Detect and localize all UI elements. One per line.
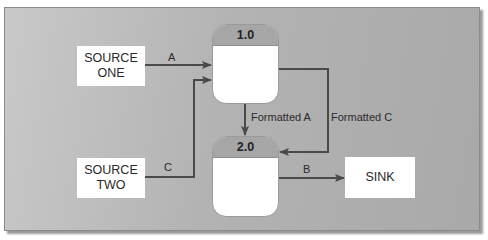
flow-label-formatted-c: Formatted C <box>331 111 392 123</box>
flow-label-a: A <box>168 51 175 63</box>
entity-source-two: SOURCE TWO <box>77 158 145 198</box>
entity-label-line: ONE <box>84 66 137 81</box>
process-1: 1.0 <box>212 24 279 104</box>
entity-label-line: SOURCE <box>84 51 137 66</box>
flow-label-formatted-a: Formatted A <box>251 111 311 123</box>
flow-label-b: B <box>303 163 310 175</box>
flow-label-c: C <box>164 161 172 173</box>
process-number: 1.0 <box>213 25 278 46</box>
process-number: 2.0 <box>213 137 278 158</box>
entity-label-line: SOURCE <box>84 163 137 178</box>
entity-label-line: TWO <box>84 178 137 193</box>
entity-source-one: SOURCE ONE <box>77 46 145 86</box>
flow-c-arrow <box>145 80 211 177</box>
entity-sink: SINK <box>345 157 415 198</box>
process-2: 2.0 <box>212 136 279 217</box>
entity-label-line: SINK <box>365 170 394 185</box>
